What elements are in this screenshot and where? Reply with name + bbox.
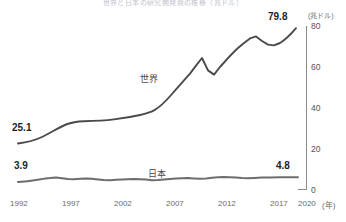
x-axis-tick-2020: 2020 [298,199,316,208]
data-label-world-end: 79.8 [268,11,287,22]
series-label-world: 世界 [140,72,158,85]
y-axis-tick-20: 20 [311,145,320,153]
series-label-japan: 日本 [148,167,166,180]
x-axis-tick-2002: 2002 [114,199,132,208]
data-label-japan-start: 3.9 [14,160,28,171]
y-axis-tick-60: 60 [311,63,320,71]
y-axis-tick-0: 0 [311,186,316,194]
x-axis-tick-1992: 1992 [10,199,28,208]
chart-plot-area [0,0,346,222]
x-axis-tick-2017: 2017 [270,199,288,208]
data-label-world-start: 25.1 [12,122,31,133]
x-axis-tick-2012: 2012 [218,199,236,208]
chart-container: 世界と日本の研究開発費の推移（兆ドル） (兆ドル) 80 60 40 20 0 … [0,0,346,222]
x-axis-tick-2007: 2007 [166,199,184,208]
x-axis-year-suffix: (年) [322,199,335,210]
data-label-japan-end: 4.8 [276,160,290,171]
y-axis-tick-40: 40 [311,104,320,112]
y-axis-unit-label: (兆ドル) [308,10,334,20]
x-axis-tick-1997: 1997 [62,199,80,208]
y-axis-tick-80: 80 [311,22,320,30]
series-line-world [18,28,296,143]
